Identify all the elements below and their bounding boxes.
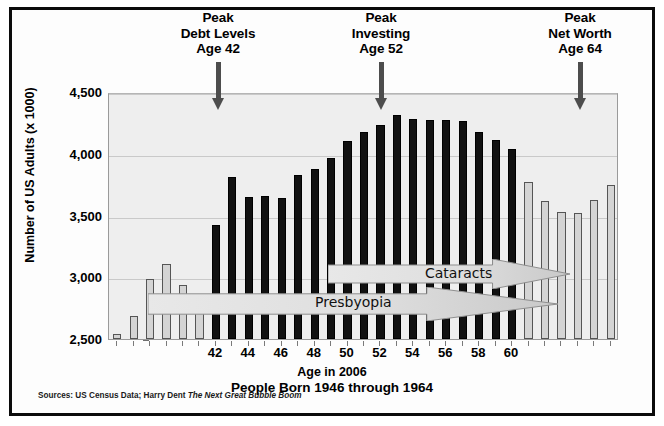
- y-axis-title: Number of US Adults (x 1000): [23, 75, 37, 275]
- y-tick-label-4500: 4,500: [69, 85, 102, 100]
- callout-arrow-peak-networth: [574, 62, 587, 110]
- x-tick-mark-37: [133, 341, 134, 346]
- x-tick-label-42: 42: [200, 345, 230, 360]
- source-label: Sources:: [38, 391, 73, 400]
- callout-arrow-peak-investing: [375, 62, 388, 110]
- callout-peak-networth-line-2: Net Worth: [510, 26, 650, 42]
- bar-age-42: [212, 225, 220, 339]
- y-axis: 2,5003,0003,5004,0004,500: [40, 0, 102, 426]
- callout-peak-investing: PeakInvestingAge 52: [311, 10, 451, 57]
- arrow-shaft: [379, 62, 384, 98]
- callout-peak-networth-line-1: Peak: [510, 10, 650, 26]
- y-tick-label-2500: 2,500: [69, 332, 102, 347]
- x-tick-label-44: 44: [233, 345, 263, 360]
- x-tick-mark-61: [528, 341, 529, 346]
- condition-label-cataracts: Cataracts: [425, 265, 492, 281]
- bar-age-36: [113, 334, 121, 339]
- callout-peak-debt-line-3: Age 42: [148, 41, 288, 57]
- y-tick-label-4000: 4,000: [69, 147, 102, 162]
- x-tick-mark-62: [544, 341, 545, 346]
- y-tick-label-3500: 3,500: [69, 209, 102, 224]
- callout-peak-networth: PeakNet WorthAge 64: [510, 10, 650, 57]
- callout-peak-debt-line-2: Debt Levels: [148, 26, 288, 42]
- arrow-head: [574, 98, 586, 110]
- source-text: US Census Data; Harry Dent: [75, 391, 185, 400]
- x-tick-mark-40: [182, 341, 183, 346]
- x-tick-label-46: 46: [266, 345, 296, 360]
- bar-age-64: [574, 213, 582, 339]
- callout-peak-debt: PeakDebt LevelsAge 42: [148, 10, 288, 57]
- callout-peak-debt-line-1: Peak: [148, 10, 288, 26]
- x-tick-label-58: 58: [463, 345, 493, 360]
- x-tick-mark-63: [560, 341, 561, 346]
- x-tick-label-56: 56: [430, 345, 460, 360]
- callout-peak-investing-line-3: Age 52: [311, 41, 451, 57]
- callout-peak-investing-line-2: Investing: [311, 26, 451, 42]
- condition-label-presbyopia: Presbyopia: [315, 294, 392, 310]
- bar-age-66: [607, 185, 615, 339]
- x-tick-label-60: 60: [496, 345, 526, 360]
- x-tick-mark-64: [577, 341, 578, 346]
- chart-figure: Number of US Adults (x 1000) 2,5003,0003…: [0, 0, 664, 426]
- x-tick-mark-36: [116, 341, 117, 346]
- source-note: Sources: US Census Data; Harry Dent The …: [38, 391, 301, 400]
- x-tick-mark-65: [593, 341, 594, 346]
- arrow-shaft: [578, 62, 583, 98]
- y-tick-label-3000: 3,000: [69, 270, 102, 285]
- x-tick-mark-39: [166, 341, 167, 346]
- callout-peak-investing-line-1: Peak: [311, 10, 451, 26]
- x-tick-label-52: 52: [364, 345, 394, 360]
- arrow-shaft: [216, 62, 221, 98]
- x-axis-title: Age in 2006: [0, 365, 664, 379]
- x-tick-mark-38: [149, 341, 150, 346]
- arrow-head: [212, 98, 224, 110]
- bar-age-65: [590, 200, 598, 339]
- x-tick-mark-66: [610, 341, 611, 346]
- x-tick-label-50: 50: [332, 345, 362, 360]
- x-tick-label-48: 48: [299, 345, 329, 360]
- arrow-head: [375, 98, 387, 110]
- y-tick-mark-2500: [143, 340, 149, 341]
- callout-arrow-peak-debt: [212, 62, 225, 110]
- callout-peak-networth-line-3: Age 64: [510, 41, 650, 57]
- source-title: The Next Great Bubble Boom: [188, 391, 302, 400]
- bar-age-37: [130, 316, 138, 339]
- x-tick-label-54: 54: [397, 345, 427, 360]
